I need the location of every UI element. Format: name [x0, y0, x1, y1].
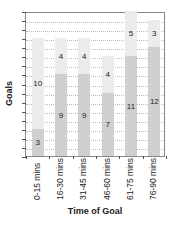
- y-tick: [22, 21, 26, 22]
- y-axis-title: Goals: [4, 81, 14, 106]
- bar-segment-bottom: 3: [32, 129, 44, 156]
- bar-segment-top: 10: [32, 38, 44, 129]
- x-axis-title: Time of Goal: [25, 206, 165, 216]
- y-tick: [22, 94, 26, 95]
- x-tick: [166, 156, 167, 159]
- y-tick: [22, 57, 26, 58]
- x-category-label: 46-60 mins: [102, 158, 112, 200]
- bar-16-30-mins: 94: [55, 38, 67, 156]
- grid-line: [26, 49, 164, 50]
- bar-46-60-mins: 74: [102, 56, 114, 156]
- y-tick: [22, 12, 26, 13]
- y-tick: [22, 75, 26, 76]
- grid-line: [26, 131, 164, 132]
- y-tick: [22, 121, 26, 122]
- x-tick: [143, 156, 144, 159]
- x-tick: [49, 156, 50, 159]
- bar-segment-bottom: 11: [125, 56, 137, 156]
- x-tick: [119, 156, 120, 159]
- y-tick: [22, 30, 26, 31]
- y-tick: [22, 66, 26, 67]
- grid-line: [26, 104, 164, 105]
- grid-line: [26, 122, 164, 123]
- x-category-label: 31-45 mins: [78, 158, 88, 200]
- grid-line: [26, 86, 164, 87]
- y-tick: [22, 103, 26, 104]
- bar-segment-top: 5: [125, 11, 137, 56]
- x-category-label: 61-75 mins: [125, 158, 135, 200]
- plot-area: 310949474115123: [25, 12, 165, 157]
- bar-segment-top: 4: [78, 38, 90, 74]
- grid-line: [26, 95, 164, 96]
- bar-segment-bottom: 12: [148, 47, 160, 156]
- grid-line: [26, 40, 164, 41]
- grid-line: [26, 140, 164, 141]
- bar-segment-top: 4: [102, 56, 114, 92]
- bar-31-45-mins: 94: [78, 38, 90, 156]
- y-tick: [22, 39, 26, 40]
- y-tick: [22, 48, 26, 49]
- grid-line: [26, 58, 164, 59]
- bar-segment-top: 4: [55, 38, 67, 74]
- bar-segment-bottom: 7: [102, 93, 114, 156]
- y-tick: [22, 139, 26, 140]
- x-tick: [73, 156, 74, 159]
- y-tick: [22, 148, 26, 149]
- grid-line: [26, 149, 164, 150]
- stacked-bar-chart: Goals 310949474115123 0-15 mins16-30 min…: [0, 0, 176, 231]
- bar-0-15-mins: 310: [32, 38, 44, 156]
- bar-segment-bottom: 9: [55, 74, 67, 156]
- y-tick: [22, 85, 26, 86]
- x-category-label: 76-90 mins: [148, 158, 158, 200]
- grid-line: [26, 67, 164, 68]
- x-tick: [96, 156, 97, 159]
- x-category-label: 16-30 mins: [55, 158, 65, 200]
- bar-61-75-mins: 115: [125, 11, 137, 156]
- bar-segment-top: 3: [148, 20, 160, 47]
- bar-76-90-mins: 123: [148, 20, 160, 156]
- grid-line: [26, 31, 164, 32]
- y-tick: [22, 112, 26, 113]
- grid-line: [26, 76, 164, 77]
- bar-segment-bottom: 9: [78, 74, 90, 156]
- grid-line: [26, 113, 164, 114]
- grid-line: [26, 22, 164, 23]
- x-tick: [26, 156, 27, 159]
- y-tick: [22, 130, 26, 131]
- x-category-label: 0-15 mins: [32, 163, 42, 200]
